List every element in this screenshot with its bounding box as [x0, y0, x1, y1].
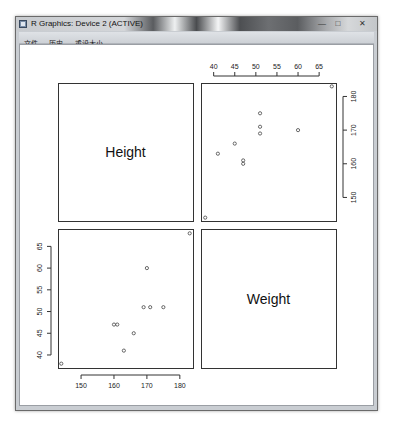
- maximize-button[interactable]: □: [331, 18, 345, 29]
- pairs-plot: Height4045505560651501601701801501601701…: [20, 45, 375, 407]
- data-point: [162, 306, 165, 309]
- window-title: R Graphics: Device 2 (ACTIVE): [31, 18, 143, 30]
- x-tick-label: 65: [315, 63, 323, 70]
- r-graphics-window: R Graphics: Device 2 (ACTIVE) — □ ✕ 文件 历…: [15, 16, 378, 411]
- y-tick-label: 150: [350, 191, 357, 203]
- data-point: [216, 152, 219, 155]
- x-tick-label: 170: [141, 382, 153, 389]
- x-tick-label: 60: [294, 63, 302, 70]
- r-app-icon: [19, 20, 27, 28]
- x-tick-label: 150: [75, 382, 87, 389]
- y-tick-label: 170: [350, 124, 357, 136]
- diagonal-label-weight: Weight: [247, 291, 290, 307]
- x-tick-label: 180: [174, 382, 186, 389]
- y-tick-label: 60: [36, 264, 43, 272]
- data-point: [233, 142, 236, 145]
- data-point: [330, 85, 333, 88]
- close-button[interactable]: ✕: [351, 18, 373, 29]
- y-tick-label: 55: [36, 286, 43, 294]
- data-point: [112, 323, 115, 326]
- menu-bar: 文件 历史 重设大小: [19, 32, 374, 44]
- title-bar[interactable]: R Graphics: Device 2 (ACTIVE) — □ ✕: [16, 17, 377, 31]
- data-point: [145, 266, 148, 269]
- x-tick-label: 40: [210, 63, 218, 70]
- plot-area: Height4045505560651501601701801501601701…: [19, 44, 374, 406]
- y-tick-label: 180: [350, 91, 357, 103]
- data-point: [116, 323, 119, 326]
- data-point: [242, 162, 245, 165]
- panel-frame-bottom-left: [59, 230, 194, 369]
- x-tick-label: 160: [108, 382, 120, 389]
- data-point: [242, 159, 245, 162]
- data-point: [258, 125, 261, 128]
- x-tick-label: 50: [252, 63, 260, 70]
- data-point: [258, 112, 261, 115]
- data-point: [60, 362, 63, 365]
- y-tick-label: 40: [36, 351, 43, 359]
- y-tick-label: 65: [36, 242, 43, 250]
- data-point: [296, 129, 299, 132]
- data-point: [149, 306, 152, 309]
- minimize-button[interactable]: —: [315, 18, 329, 29]
- x-tick-label: 45: [231, 63, 239, 70]
- y-tick-label: 160: [350, 158, 357, 170]
- x-tick-label: 55: [273, 63, 281, 70]
- data-point: [188, 232, 191, 235]
- data-point: [132, 332, 135, 335]
- data-point: [122, 349, 125, 352]
- diagonal-label-height: Height: [105, 144, 146, 160]
- y-tick-label: 45: [36, 329, 43, 337]
- data-point: [204, 216, 207, 219]
- data-point: [142, 306, 145, 309]
- panel-frame-top-right: [202, 84, 337, 222]
- data-point: [258, 132, 261, 135]
- y-tick-label: 50: [36, 308, 43, 316]
